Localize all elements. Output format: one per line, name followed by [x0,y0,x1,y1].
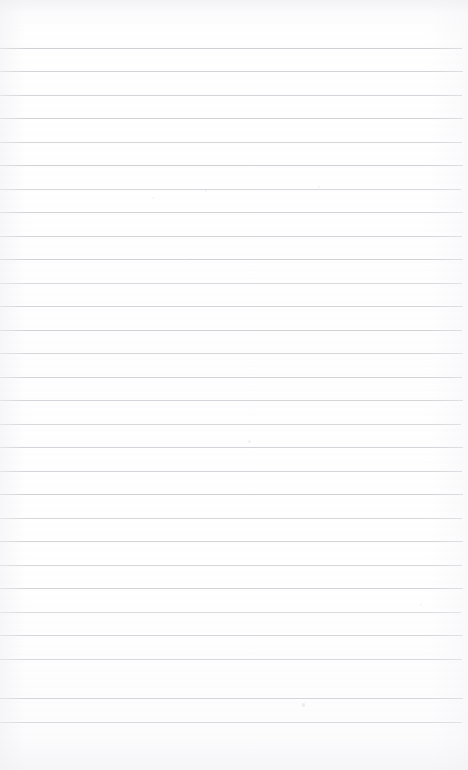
ruled-line [0,142,462,143]
ruled-line [0,71,463,72]
ruled-line [0,259,463,260]
ruled-line [0,424,461,425]
ruled-line [0,306,463,307]
ruled-line [0,588,463,589]
ruled-line [0,494,463,495]
ruled-line [0,212,463,213]
ruled-line [0,400,463,401]
ruled-line [0,659,462,660]
ruled-line [0,635,463,636]
ruled-line [0,518,462,519]
ruled-line [0,118,463,119]
ruled-line [0,330,462,331]
ruled-line [0,447,463,448]
ruled-line [0,236,462,237]
ruled-line [0,283,462,284]
ruled-line [0,471,462,472]
ruled-lines-layer [0,0,468,770]
ruled-line [0,612,461,613]
ruled-line [0,541,463,542]
ruled-line [0,95,462,96]
ruled-line [0,48,462,49]
ruled-line [0,722,462,723]
ruled-line [0,189,461,190]
ruled-line [0,377,462,378]
ruled-line [0,698,463,699]
scanned-page [0,0,468,770]
ruled-line [0,165,463,166]
ruled-line [0,565,462,566]
ruled-line [0,353,463,354]
